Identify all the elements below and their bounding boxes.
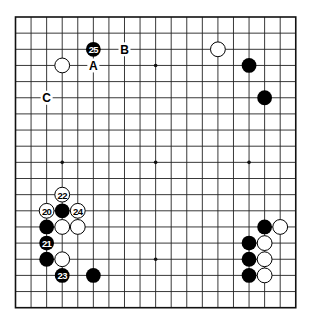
white-stone-icon — [211, 42, 226, 57]
white-stone-move-24: 24 — [70, 203, 85, 218]
white-stone-icon — [55, 220, 70, 235]
black-stone — [242, 58, 257, 73]
move-number: 22 — [58, 190, 68, 201]
star-point — [247, 161, 251, 165]
go-board: ABC 252220242123 — [0, 0, 315, 325]
black-stone — [257, 220, 272, 235]
white-stone — [55, 220, 70, 235]
white-stone-icon — [257, 252, 272, 267]
black-stone — [39, 252, 54, 267]
star-point — [154, 64, 158, 68]
move-number: 20 — [42, 206, 52, 217]
white-stone — [211, 42, 226, 57]
star-point — [60, 161, 64, 165]
white-stone-move-20: 20 — [39, 203, 54, 218]
move-number: 25 — [89, 44, 100, 55]
white-stone — [273, 220, 288, 235]
white-stone-icon — [257, 236, 272, 251]
black-stone-icon — [39, 252, 54, 267]
mark-label: A — [89, 59, 98, 73]
white-stone-icon — [257, 268, 272, 283]
move-number: 23 — [58, 270, 68, 281]
star-point — [154, 257, 158, 261]
black-stone-icon — [242, 252, 257, 267]
black-stone — [242, 268, 257, 283]
white-stone-icon — [55, 58, 70, 73]
move-number: 24 — [73, 206, 84, 217]
black-stone-icon — [242, 58, 257, 73]
white-stone — [257, 268, 272, 283]
mark-b: B — [118, 42, 130, 57]
black-stone-move-25: 25 — [86, 42, 101, 57]
white-stone-icon — [55, 252, 70, 267]
black-stone — [257, 90, 272, 105]
black-stone-icon — [257, 220, 272, 235]
mark-label: B — [120, 43, 129, 57]
black-stone-move-21: 21 — [39, 236, 54, 251]
white-stone — [257, 236, 272, 251]
black-stone-icon — [242, 268, 257, 283]
black-stone-icon — [39, 220, 54, 235]
star-point — [154, 161, 158, 165]
black-stone-icon — [86, 268, 101, 283]
black-stone — [39, 220, 54, 235]
black-stone — [86, 268, 101, 283]
white-stone — [257, 252, 272, 267]
black-stone — [242, 252, 257, 267]
move-number: 21 — [42, 238, 53, 249]
black-stone — [55, 203, 70, 218]
black-stone-icon — [257, 90, 272, 105]
black-stone-move-23: 23 — [55, 268, 70, 283]
mark-label: C — [42, 91, 51, 105]
white-stone-icon — [70, 220, 85, 235]
mark-a: A — [87, 58, 99, 72]
black-stone — [242, 236, 257, 251]
white-stone-move-22: 22 — [55, 187, 70, 202]
white-stone — [70, 220, 85, 235]
white-stone — [55, 58, 70, 73]
black-stone-icon — [55, 203, 70, 218]
mark-c: C — [41, 91, 53, 106]
letter-marks: ABC — [41, 42, 131, 105]
black-stone-icon — [242, 236, 257, 251]
white-stone-icon — [273, 220, 288, 235]
white-stone — [55, 252, 70, 267]
